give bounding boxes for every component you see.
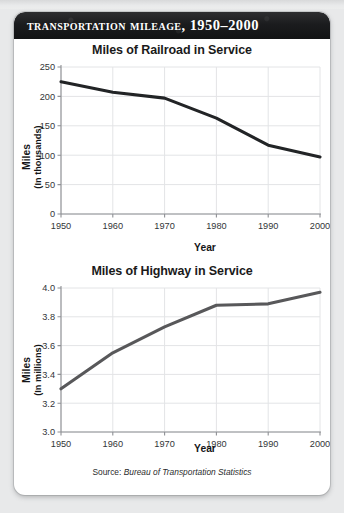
source-note: Source: Bureau of Transportation Statist… <box>14 467 330 477</box>
svg-text:3.6: 3.6 <box>42 341 55 351</box>
chart-railroad: Miles of Railroad in Service 05010015020… <box>14 43 330 259</box>
chart-highway-svg: 3.03.23.43.63.84.0 195019601970198019902… <box>14 278 330 456</box>
chart-railroad-yaxis-title-group: Miles (In thousands) <box>21 125 43 188</box>
chart-railroad-yaxis-title: Miles <box>21 144 32 170</box>
svg-text:4.0: 4.0 <box>42 283 55 293</box>
svg-text:3.2: 3.2 <box>42 399 55 409</box>
svg-text:50: 50 <box>45 180 55 190</box>
svg-text:1990: 1990 <box>258 439 278 449</box>
chart-railroad-yaxis-subtitle: (In thousands) <box>33 125 43 188</box>
figure-card: Transportation Mileage, 1950–2000 Miles … <box>14 12 330 495</box>
chart-highway-title: Miles of Highway in Service <box>14 264 330 278</box>
svg-text:1960: 1960 <box>103 439 123 449</box>
svg-text:0: 0 <box>50 209 55 219</box>
svg-text:1960: 1960 <box>103 221 123 231</box>
source-name: Bureau of Transportation Statistics <box>124 467 252 477</box>
svg-text:1990: 1990 <box>258 221 278 231</box>
chart-railroad-title: Miles of Railroad in Service <box>14 43 330 57</box>
title-banner: Transportation Mileage, 1950–2000 <box>14 12 330 39</box>
svg-text:2000: 2000 <box>310 221 330 231</box>
svg-text:3.0: 3.0 <box>42 427 55 437</box>
chart-highway: Miles of Highway in Service 3.03.23.43.6… <box>14 264 330 460</box>
svg-text:1970: 1970 <box>154 221 174 231</box>
chart-highway-xticklabels: 195019601970198019902000 <box>51 439 330 449</box>
chart-railroad-xaxis-title: Year <box>194 242 216 253</box>
chart-railroad-plot: 050100150200250 195019601970198019902000… <box>14 57 330 255</box>
chart-railroad-xticklabels: 195019601970198019902000 <box>51 221 330 231</box>
chart-highway-ticklabels: 3.03.23.43.63.84.0 <box>42 283 55 437</box>
chart-highway-yaxis-title-group: Miles (In millions) <box>21 344 43 396</box>
page-edge-artifact <box>0 0 344 9</box>
svg-text:3.4: 3.4 <box>42 370 55 380</box>
chart-highway-yaxis-subtitle: (In millions) <box>33 344 43 396</box>
svg-text:2000: 2000 <box>310 439 330 449</box>
svg-text:3.8: 3.8 <box>42 312 55 322</box>
svg-text:200: 200 <box>40 92 55 102</box>
chart-highway-axes <box>58 286 322 436</box>
svg-text:1950: 1950 <box>51 221 71 231</box>
chart-railroad-series-line <box>61 82 320 157</box>
figure-title: Transportation Mileage, 1950–2000 <box>27 17 259 34</box>
chart-highway-xaxis-title: Year <box>194 443 216 454</box>
chart-railroad-svg: 050100150200250 195019601970198019902000… <box>14 57 330 255</box>
chart-highway-yaxis-title: Miles <box>21 357 32 383</box>
svg-text:1970: 1970 <box>154 439 174 449</box>
source-prefix: Source: <box>92 467 123 477</box>
svg-text:250: 250 <box>40 62 55 72</box>
chart-highway-plot: 3.03.23.43.63.84.0 195019601970198019902… <box>14 278 330 456</box>
svg-text:1980: 1980 <box>206 221 226 231</box>
svg-text:1950: 1950 <box>51 439 71 449</box>
